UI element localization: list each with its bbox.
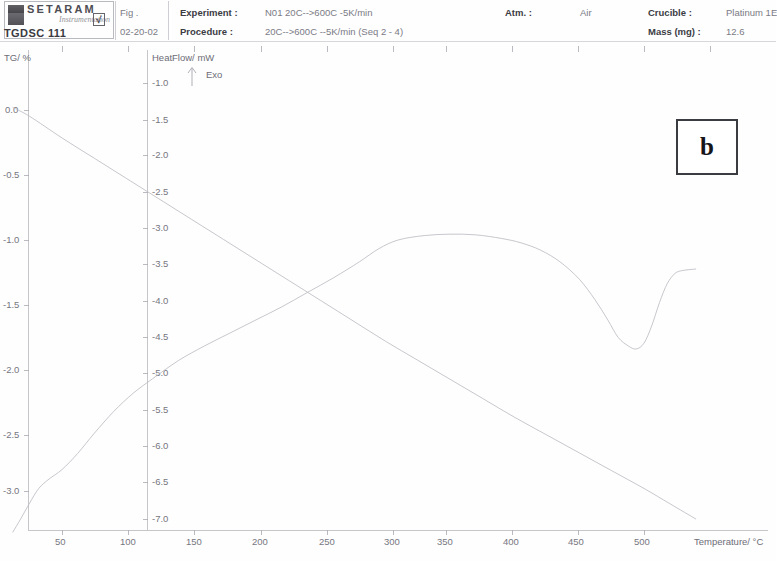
tg-curve xyxy=(13,107,696,518)
header-divider-2 xyxy=(168,1,169,40)
crucible-key: Crucible : xyxy=(648,7,692,18)
crucible-value: Platinum 1E xyxy=(726,7,777,18)
fig-value: 02-20-02 xyxy=(120,26,158,37)
brand-name: SETARAM xyxy=(27,3,96,15)
chart-plot-area: TG/ % HeatFlow/ mW Temperature/ °C Exo 0… xyxy=(0,42,776,561)
procedure-key: Procedure : xyxy=(180,26,233,37)
fig-label: Fig . xyxy=(120,7,138,18)
report-header: SETARAM Instrumentation √ TGDSC 111 Fig … xyxy=(0,0,776,42)
instrument-model: TGDSC 111 xyxy=(4,27,66,39)
atmosphere-key: Atm. : xyxy=(505,7,532,18)
experiment-key: Experiment : xyxy=(180,7,238,18)
sqrt-icon: √ xyxy=(93,13,105,26)
setaram-logo-icon xyxy=(8,5,24,25)
mass-value: 12.6 xyxy=(726,26,745,37)
atmosphere-value: Air xyxy=(580,7,592,18)
experiment-value: N01 20C-->600C -5K/min xyxy=(265,7,372,18)
header-divider-1 xyxy=(115,1,116,40)
procedure-value: 20C-->600C --5K/min (Seq 2 - 4) xyxy=(265,26,403,37)
mass-key: Mass (mg) : xyxy=(648,26,701,37)
dsc-curve xyxy=(13,234,696,532)
curve-canvas xyxy=(0,42,776,561)
panel-label-b: b xyxy=(676,119,738,175)
